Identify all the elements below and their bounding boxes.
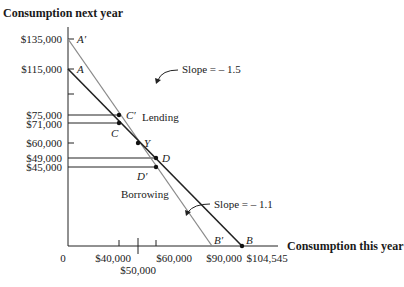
y-axis-title: Consumption next year xyxy=(3,6,124,20)
chart: Consumption next year Consumption this y… xyxy=(0,0,404,287)
lending-label: Lending xyxy=(142,111,179,123)
borrowing-label: Borrowing xyxy=(121,188,169,200)
x-label-0: 0 xyxy=(60,252,66,264)
label-c: C xyxy=(111,127,119,139)
slope-15-arrow xyxy=(158,70,178,80)
y-label-135000: $135,000 xyxy=(21,33,63,45)
label-a: A xyxy=(76,63,84,75)
x-label-40000: $40,000 xyxy=(95,252,131,264)
label-c-prime: C′ xyxy=(126,109,136,121)
label-a-prime: A′ xyxy=(76,33,87,45)
y-label-60000: $60,000 xyxy=(26,137,62,149)
slope-11-label: Slope = – 1.1 xyxy=(214,198,273,210)
label-b: B xyxy=(246,234,253,246)
x-label-50000: $50,000 xyxy=(120,264,156,276)
y-ticks xyxy=(68,39,74,143)
label-d-prime: D′ xyxy=(136,170,148,182)
label-y: Y xyxy=(144,137,152,149)
slope-15-label: Slope = – 1.5 xyxy=(182,63,241,75)
label-d: D xyxy=(161,152,170,164)
x-label-104545: $104,545 xyxy=(246,252,288,264)
y-label-71000: $71,000 xyxy=(26,118,62,130)
label-b-prime: B′ xyxy=(214,234,224,246)
x-label-90000: $90,000 xyxy=(206,252,242,264)
y-label-115000: $115,000 xyxy=(21,63,62,75)
y-label-45000: $45,000 xyxy=(26,161,62,173)
x-axis-title: Consumption this year xyxy=(287,239,404,253)
x-label-60000: $60,000 xyxy=(156,252,192,264)
